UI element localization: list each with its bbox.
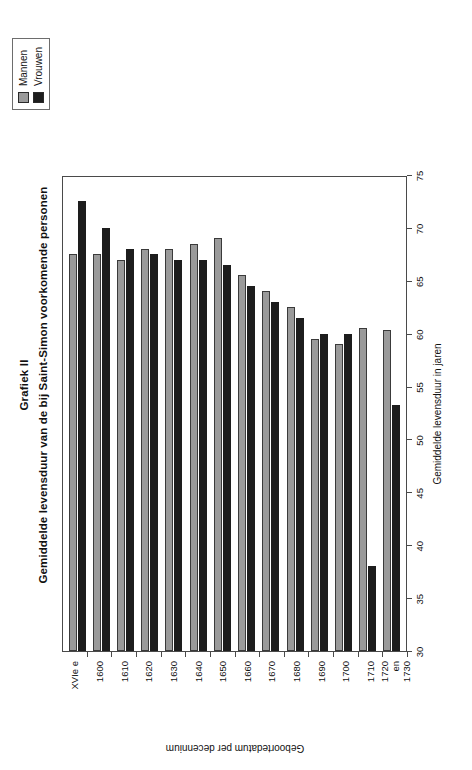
bar-group [89, 177, 113, 651]
value-tick-label: 70 [414, 224, 425, 235]
bar-vrouwen-6 [223, 265, 231, 651]
category-tick-label: 1600 [93, 661, 104, 682]
chart-title: Grafiek II [18, 0, 30, 770]
category-tick-label: 1640 [192, 661, 203, 682]
bar-mannen-4 [165, 249, 173, 651]
category-axis-title-label: Geboortedatum per decennium [165, 743, 303, 754]
bar-group [259, 177, 283, 651]
rotated-figure-wrapper: Grafiek II Gemiddelde levensduur van de … [0, 0, 472, 770]
value-tick [407, 492, 412, 493]
bar-vrouwen-11 [344, 334, 352, 651]
bar-vrouwen-4 [174, 260, 182, 651]
value-tick [407, 281, 412, 282]
bar-group [380, 177, 404, 651]
value-tick-label: 75 [414, 171, 425, 182]
value-tick-label: 50 [414, 435, 425, 446]
value-tick [407, 228, 412, 229]
category-axis-title: Geboortedatum per decennium [62, 740, 407, 756]
bar-group [65, 177, 89, 651]
category-tick [235, 652, 236, 657]
bar-group [210, 177, 234, 651]
bar-vrouwen-1 [102, 228, 110, 651]
bar-mannen-10 [311, 339, 319, 651]
category-tick [308, 652, 309, 657]
value-axis-title: Gemiddelde levensduur in jaren [432, 176, 443, 652]
legend-swatch-icon [18, 92, 29, 103]
bar-group [138, 177, 162, 651]
category-tick [284, 652, 285, 657]
category-tick-label: 1660 [241, 661, 252, 682]
bar-group [162, 177, 186, 651]
value-tick [407, 387, 412, 388]
category-tick-label: 1610 [118, 661, 129, 682]
category-tick [333, 652, 334, 657]
chart-legend: MannenVrouwen [12, 38, 50, 110]
category-tick-label: 1650 [217, 661, 228, 682]
bar-mannen-12 [359, 328, 367, 651]
bar-mannen-0 [69, 254, 77, 651]
legend-item: Vrouwen [33, 47, 44, 103]
bar-mannen-13 [383, 331, 391, 652]
bar-mannen-1 [93, 254, 101, 651]
title-block: Grafiek II Gemiddelde levensduur van de … [18, 0, 49, 770]
value-tick-label: 65 [414, 276, 425, 287]
legend-item-label: Mannen [19, 50, 29, 86]
bar-group [307, 177, 331, 651]
chart-figure: Grafiek II Gemiddelde levensduur van de … [0, 0, 472, 770]
value-tick [407, 545, 412, 546]
category-tick-label: 1710 [365, 661, 376, 682]
category-tick [185, 652, 186, 657]
bars-container [63, 177, 406, 651]
category-tick-label: 1670 [266, 661, 277, 682]
category-tick [382, 652, 383, 657]
category-tick [161, 652, 162, 657]
value-tick-label: 55 [414, 382, 425, 393]
bar-vrouwen-7 [247, 286, 255, 651]
bar-group [356, 177, 380, 651]
category-tick-label: 1700 [340, 661, 351, 682]
value-tick [407, 334, 412, 335]
bar-mannen-7 [238, 276, 246, 652]
bar-vrouwen-3 [150, 254, 158, 651]
value-tick-label: 30 [414, 647, 425, 658]
bar-mannen-5 [190, 244, 198, 651]
category-tick [358, 652, 359, 657]
bar-mannen-2 [117, 260, 125, 651]
category-tick [407, 652, 408, 657]
bar-vrouwen-2 [126, 249, 134, 651]
category-tick-label: 1620 [143, 661, 154, 682]
bar-mannen-6 [214, 238, 222, 651]
bar-vrouwen-9 [296, 318, 304, 651]
bar-vrouwen-5 [199, 260, 207, 651]
bar-vrouwen-8 [271, 302, 279, 651]
value-tick [407, 175, 412, 176]
bar-vrouwen-10 [320, 334, 328, 651]
bar-vrouwen-13 [392, 405, 400, 651]
bar-vrouwen-0 [78, 201, 86, 651]
value-tick-label: 35 [414, 594, 425, 605]
category-tick-label: XVIe e [69, 661, 80, 690]
legend-swatch-icon [33, 92, 44, 103]
value-tick-label: 40 [414, 541, 425, 552]
category-tick [87, 652, 88, 657]
bar-mannen-11 [335, 344, 343, 651]
category-tick [136, 652, 137, 657]
chart-subtitle: Gemiddelde levensduur van de bij Saint-S… [37, 0, 49, 770]
legend-item-label: Vrouwen [34, 47, 44, 86]
bar-group [235, 177, 259, 651]
value-tick [407, 439, 412, 440]
category-tick [210, 652, 211, 657]
bar-mannen-3 [141, 249, 149, 651]
value-tick-label: 60 [414, 329, 425, 340]
bar-group [186, 177, 210, 651]
plot-area [62, 176, 407, 652]
legend-item: Mannen [18, 47, 29, 103]
category-axis: XVIe e1600161016201630164016501660167016… [62, 652, 407, 730]
bar-group [331, 177, 355, 651]
category-tick-label: 1680 [291, 661, 302, 682]
category-tick [111, 652, 112, 657]
value-tick [407, 598, 412, 599]
category-tick-label: 1630 [167, 661, 178, 682]
category-tick-label: 1720en1730 [378, 661, 411, 682]
bar-group [113, 177, 137, 651]
